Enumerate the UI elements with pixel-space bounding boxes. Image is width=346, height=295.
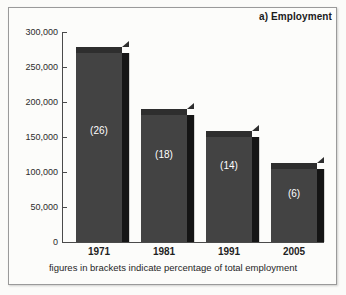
bar-side-face-1971 [122, 53, 129, 242]
bar-1971[interactable]: (26) [76, 47, 122, 242]
bar-label-1991: (14) [206, 160, 252, 171]
x-axis-line [62, 242, 324, 243]
y-tick-label-200000: 200,000 [25, 98, 58, 107]
bar-top-bevel-1981 [187, 103, 194, 109]
x-tick-label-2005: 2005 [264, 246, 324, 257]
y-tick-label-50000: 50,000 [30, 203, 58, 212]
bar-front-1981 [141, 109, 187, 242]
bar-label-1981: (18) [141, 149, 187, 160]
bar-front-2005 [271, 163, 317, 242]
y-tick-150000 [62, 137, 67, 138]
y-tick-label-0: 0 [53, 238, 58, 247]
bar-1981[interactable]: (18) [141, 109, 187, 242]
x-tick-label-1991: 1991 [199, 246, 259, 257]
y-tick-250000 [62, 67, 67, 68]
y-tick-label-250000: 250,000 [25, 63, 58, 72]
chart-page: a) Employment 300,000 250,000 200,000 15… [0, 0, 346, 295]
bar-front-1991 [206, 131, 252, 242]
x-tick-label-1971: 1971 [69, 246, 129, 257]
bar-top-face-1991 [206, 131, 252, 137]
bar-side-face-1991 [252, 137, 259, 242]
bar-side-face-1981 [187, 115, 194, 242]
y-tick-50000 [62, 207, 67, 208]
bar-top-face-1981 [141, 109, 187, 115]
bar-top-bevel-1991 [252, 125, 259, 131]
chart-footnote: figures in brackets indicate percentage … [0, 262, 346, 273]
plot-area: 300,000 250,000 200,000 150,000 100,000 … [0, 0, 346, 295]
bar-label-2005: (6) [271, 188, 317, 199]
bar-top-face-2005 [271, 163, 317, 169]
bar-label-1971: (26) [76, 125, 122, 136]
bar-top-bevel-2005 [317, 157, 324, 163]
x-tick-label-1981: 1981 [134, 246, 194, 257]
y-tick-label-100000: 100,000 [25, 168, 58, 177]
y-tick-label-150000: 150,000 [25, 133, 58, 142]
y-tick-100000 [62, 172, 67, 173]
bar-1991[interactable]: (14) [206, 131, 252, 242]
bar-top-face-1971 [76, 47, 122, 53]
bar-side-face-2005 [317, 169, 324, 242]
y-tick-200000 [62, 102, 67, 103]
y-tick-label-300000: 300,000 [25, 28, 58, 37]
bar-top-bevel-1971 [122, 41, 129, 47]
y-tick-300000 [62, 32, 67, 33]
bar-front-1971 [76, 47, 122, 242]
bar-2005[interactable]: (6) [271, 163, 317, 242]
